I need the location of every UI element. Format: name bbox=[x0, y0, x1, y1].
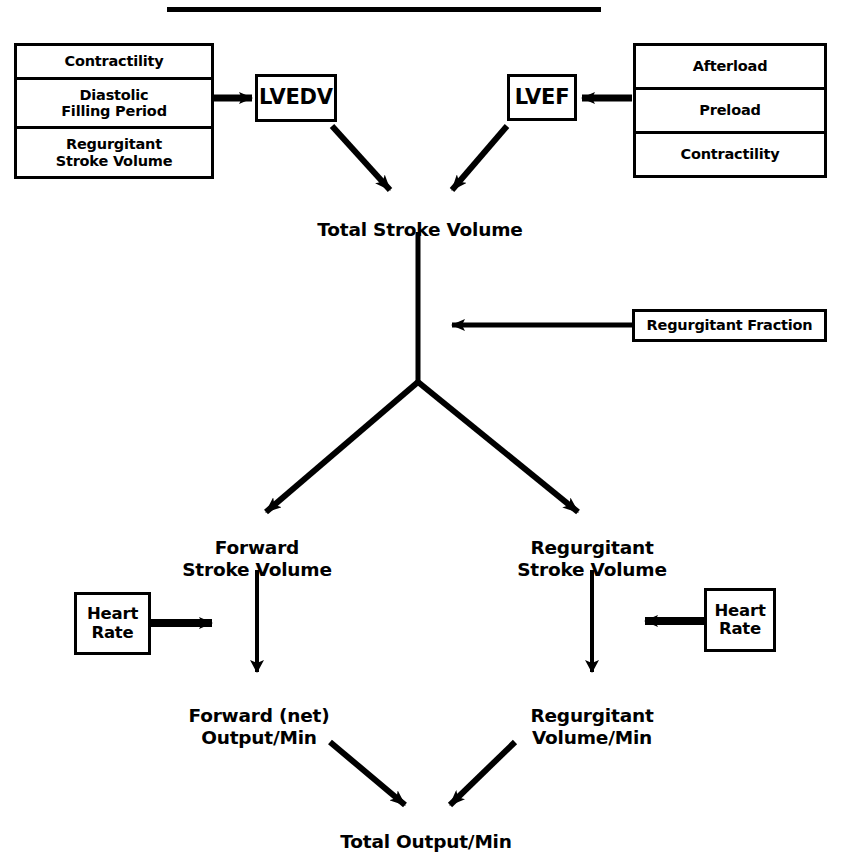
node-label: Forward (net) Output/Min bbox=[189, 705, 330, 747]
determinant-label: Contractility bbox=[680, 146, 779, 162]
node-regurgitant-stroke-volume: Regurgitant Stroke Volume bbox=[492, 516, 692, 580]
node-forward-stroke-volume: Forward Stroke Volume bbox=[157, 516, 357, 580]
node-regurgitant-volume-min: Regurgitant Volume/Min bbox=[492, 684, 692, 748]
node-heart-rate-left: Heart Rate bbox=[74, 592, 151, 655]
determinant-label: Contractility bbox=[64, 53, 163, 69]
edge-forward-output-to-total bbox=[330, 742, 405, 805]
node-label: Heart Rate bbox=[87, 605, 138, 642]
node-heart-rate-right: Heart Rate bbox=[704, 588, 776, 652]
node-label: LVEF bbox=[515, 86, 570, 110]
determinant-label: Regurgitant Stroke Volume bbox=[56, 136, 173, 168]
determinant-row-contractility: Contractility bbox=[17, 46, 211, 80]
node-label: Heart Rate bbox=[714, 602, 765, 639]
flowchart-canvas: Contractility Diastolic Filling Period R… bbox=[0, 0, 852, 863]
determinant-row-diastolic-filling-period: Diastolic Filling Period bbox=[17, 80, 211, 130]
node-total-output-min: Total Output/Min bbox=[320, 810, 532, 853]
node-label: Regurgitant Fraction bbox=[647, 317, 813, 333]
edge-lvef-to-total-stroke-volume bbox=[452, 126, 507, 190]
determinant-row-regurgitant-stroke-volume: Regurgitant Stroke Volume bbox=[17, 129, 211, 176]
node-lvef: LVEF bbox=[507, 74, 577, 121]
node-total-stroke-volume: Total Stroke Volume bbox=[298, 198, 542, 241]
edge-split-to-forward-stroke-volume bbox=[266, 382, 418, 512]
determinant-row-afterload: Afterload bbox=[636, 46, 824, 90]
edge-lvedv-to-total-stroke-volume bbox=[332, 126, 390, 190]
node-label: Total Output/Min bbox=[340, 831, 511, 852]
determinant-row-preload: Preload bbox=[636, 90, 824, 134]
node-label: Regurgitant Stroke Volume bbox=[517, 537, 667, 579]
determinant-row-contractility: Contractility bbox=[636, 134, 824, 175]
determinant-label: Diastolic Filling Period bbox=[61, 87, 167, 119]
node-label: Total Stroke Volume bbox=[317, 219, 522, 240]
determinant-label: Preload bbox=[699, 102, 760, 118]
edge-regurgitant-volume-to-total bbox=[450, 742, 515, 805]
node-forward-output-min: Forward (net) Output/Min bbox=[157, 684, 361, 748]
node-label: Forward Stroke Volume bbox=[182, 537, 332, 579]
determinant-label: Afterload bbox=[693, 58, 768, 74]
node-lvedv: LVEDV bbox=[255, 74, 337, 122]
node-regurgitant-fraction: Regurgitant Fraction bbox=[632, 309, 827, 342]
right-determinants-box: Afterload Preload Contractility bbox=[633, 43, 827, 178]
edge-split-to-regurgitant-stroke-volume bbox=[418, 382, 578, 512]
node-label: LVEDV bbox=[259, 86, 333, 110]
top-horizontal-rule bbox=[167, 7, 601, 12]
node-label: Regurgitant Volume/Min bbox=[530, 705, 653, 747]
left-determinants-box: Contractility Diastolic Filling Period R… bbox=[14, 43, 214, 179]
